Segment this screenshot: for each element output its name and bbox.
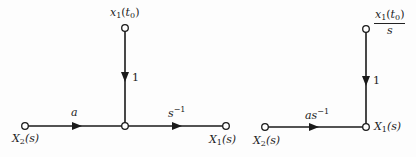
label-gain-as-inv: as−1 (305, 108, 329, 121)
label-gain-1-right: 1 (373, 75, 380, 86)
arrow-right-icon (72, 122, 82, 130)
label-x1-left: X1(s) (209, 134, 236, 147)
label-x1-right: X1(s) (374, 121, 401, 134)
label-initial-right: x1(t0) s (374, 9, 405, 36)
label-x2-right: X2(s) (253, 135, 280, 148)
node-x2 (22, 123, 29, 130)
node-initial (363, 26, 370, 33)
node-x2 (262, 124, 269, 131)
node-x1 (223, 123, 230, 130)
arrow-down-icon (362, 76, 370, 86)
arrow-down-icon (121, 72, 129, 82)
label-initial-left: x1(t0) (110, 7, 139, 20)
signal-flow-diagrams: x1(t0) 1 a s−1 X2(s) X1(s) x1(t0) s 1 as… (0, 0, 416, 157)
node-mid (122, 123, 129, 130)
left-graph (22, 25, 230, 130)
label-gain-a: a (71, 107, 78, 118)
label-x2-left: X2(s) (12, 133, 39, 146)
node-initial (122, 25, 129, 32)
arrow-right-icon (172, 122, 182, 130)
graph-lines (0, 0, 416, 157)
node-x1 (363, 124, 370, 131)
arrow-right-icon (309, 123, 319, 131)
label-gain-1-left: 1 (132, 72, 139, 83)
label-gain-s-inv: s−1 (168, 106, 185, 119)
